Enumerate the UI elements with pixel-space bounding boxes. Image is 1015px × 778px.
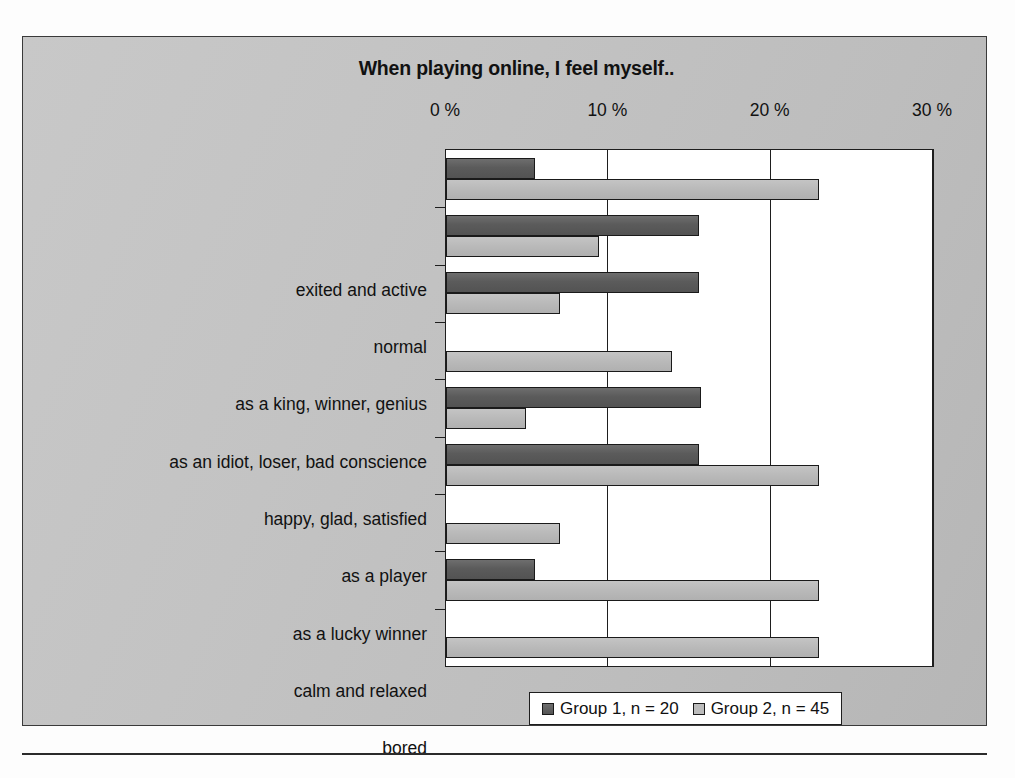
legend-label-0: Group 1, n = 20 bbox=[560, 699, 679, 719]
bar-4-series-0 bbox=[446, 387, 701, 408]
legend-swatch-icon-0 bbox=[542, 703, 554, 715]
bar-8-series-1 bbox=[446, 637, 819, 658]
category-tick-8 bbox=[435, 609, 446, 610]
bar-5-series-0 bbox=[446, 444, 699, 465]
bar-2-series-1 bbox=[446, 293, 560, 314]
gridline-3 bbox=[932, 150, 933, 666]
category-tick-2 bbox=[435, 265, 446, 266]
x-tick-label-1: 10 % bbox=[587, 100, 627, 121]
legend-entry-0: Group 1, n = 20 bbox=[542, 699, 679, 719]
legend-entry-1: Group 2, n = 45 bbox=[693, 699, 830, 719]
chart-legend: Group 1, n = 20Group 2, n = 45 bbox=[529, 692, 842, 725]
legend-label-1: Group 2, n = 45 bbox=[711, 699, 830, 719]
bar-2-series-0 bbox=[446, 272, 699, 293]
x-tick-label-3: 30 % bbox=[912, 100, 952, 121]
x-tick-label-2: 20 % bbox=[750, 100, 790, 121]
page-divider-rule bbox=[22, 753, 987, 755]
category-label-4: happy, glad, satisfied bbox=[23, 509, 437, 530]
bar-7-series-0 bbox=[446, 559, 535, 580]
category-label-5: as a player bbox=[23, 566, 437, 587]
bar-6-series-1 bbox=[446, 523, 560, 544]
category-tick-7 bbox=[435, 551, 446, 552]
category-label-8: bored bbox=[23, 738, 437, 759]
x-axis-tick-labels: 0 %10 %20 %30 % bbox=[23, 100, 988, 126]
bar-4-series-1 bbox=[446, 408, 526, 429]
category-tick-3 bbox=[435, 322, 446, 323]
legend-swatch-icon-1 bbox=[693, 703, 705, 715]
category-label-6: as a lucky winner bbox=[23, 623, 437, 644]
category-tick-6 bbox=[435, 494, 446, 495]
chart-frame: When playing online, I feel myself.. 0 %… bbox=[22, 36, 987, 726]
category-axis-labels: exited and activenormalas a king, winner… bbox=[23, 149, 437, 665]
bar-7-series-1 bbox=[446, 580, 819, 601]
category-tick-1 bbox=[435, 207, 446, 208]
plot-area bbox=[445, 149, 934, 667]
bar-5-series-1 bbox=[446, 465, 819, 486]
chart-title: When playing online, I feel myself.. bbox=[23, 57, 988, 80]
category-label-7: calm and relaxed bbox=[23, 681, 437, 702]
category-label-1: normal bbox=[23, 337, 437, 358]
bar-0-series-0 bbox=[446, 158, 535, 179]
bar-0-series-1 bbox=[446, 179, 819, 200]
category-label-3: as an idiot, loser, bad conscience bbox=[23, 451, 437, 472]
figure-page: When playing online, I feel myself.. 0 %… bbox=[0, 0, 1015, 778]
category-tick-5 bbox=[435, 437, 446, 438]
category-tick-4 bbox=[435, 379, 446, 380]
bar-1-series-0 bbox=[446, 215, 699, 236]
category-label-0: exited and active bbox=[23, 279, 437, 300]
x-tick-label-0: 0 % bbox=[430, 100, 460, 121]
category-label-2: as a king, winner, genius bbox=[23, 394, 437, 415]
bar-3-series-1 bbox=[446, 351, 672, 372]
bar-1-series-1 bbox=[446, 236, 599, 257]
